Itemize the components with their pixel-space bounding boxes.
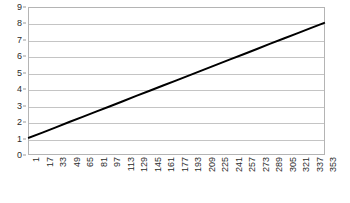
y-axis-tick-label: 0 xyxy=(0,151,22,160)
x-axis-tick-label: 49 xyxy=(73,157,82,167)
x-axis-tick-label: 241 xyxy=(235,157,244,172)
y-axis-tick-label: 9 xyxy=(0,3,22,12)
x-axis-tick-label: 81 xyxy=(100,157,109,167)
x-axis-tick-label: 65 xyxy=(86,157,95,167)
x-axis-tick-label: 129 xyxy=(140,157,149,172)
x-axis-tick-label: 17 xyxy=(46,157,55,167)
x-axis-tick-label: 337 xyxy=(316,157,325,172)
y-axis-tick-label: 2 xyxy=(0,118,22,127)
x-axis-tick-label: 177 xyxy=(181,157,190,172)
x-axis-tick-label: 113 xyxy=(127,157,136,171)
y-axis-tick-label: 7 xyxy=(0,35,22,44)
y-axis-tick-mark xyxy=(23,138,26,139)
x-axis-tick-label: 321 xyxy=(302,157,311,172)
x-axis-tick-label: 257 xyxy=(248,157,257,172)
x-axis-tick-label: 209 xyxy=(208,157,217,172)
x-axis-tick-label: 1 xyxy=(32,157,41,162)
y-axis: 9876543210 xyxy=(0,0,26,162)
x-axis-tick-label: 273 xyxy=(262,157,271,172)
plot-area xyxy=(28,7,325,155)
x-axis-tick-label: 97 xyxy=(113,157,122,167)
y-axis-tick-mark xyxy=(23,23,26,24)
y-axis-tick-mark xyxy=(23,39,26,40)
y-axis-tick-label: 5 xyxy=(0,68,22,77)
y-axis-tick-label: 8 xyxy=(0,19,22,28)
series-layer xyxy=(29,8,324,154)
x-axis-tick-label: 305 xyxy=(289,157,298,172)
x-axis-tick-label: 193 xyxy=(194,157,203,172)
y-axis-tick-label: 6 xyxy=(0,52,22,61)
data-line-series-1 xyxy=(29,23,324,138)
x-axis-tick-label: 161 xyxy=(167,157,176,172)
y-axis-tick-mark xyxy=(23,89,26,90)
y-axis-tick-label: 3 xyxy=(0,101,22,110)
x-axis-tick-label: 289 xyxy=(275,157,284,172)
y-axis-tick-mark xyxy=(23,72,26,73)
y-axis-tick-mark xyxy=(23,105,26,106)
x-axis: 1173349658197113129145161177193209225241… xyxy=(28,157,325,203)
y-axis-tick-label: 1 xyxy=(0,134,22,143)
y-axis-tick-mark xyxy=(23,155,26,156)
x-axis-tick-label: 145 xyxy=(154,157,163,172)
y-axis-tick-label: 4 xyxy=(0,85,22,94)
y-axis-tick-mark xyxy=(23,7,26,8)
line-chart: 9876543210 11733496581971131291451611771… xyxy=(0,0,350,203)
x-axis-tick-label: 33 xyxy=(59,157,68,167)
y-axis-tick-mark xyxy=(23,122,26,123)
y-axis-tick-mark xyxy=(23,56,26,57)
x-axis-tick-label: 353 xyxy=(329,157,338,172)
x-axis-tick-label: 225 xyxy=(221,157,230,172)
